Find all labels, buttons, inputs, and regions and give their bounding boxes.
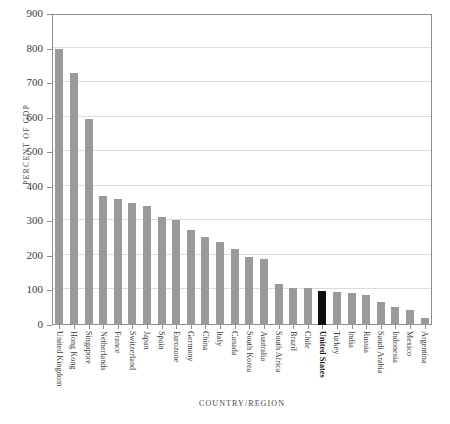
bar-group bbox=[330, 14, 345, 325]
x-axis-label: Australia bbox=[259, 331, 267, 361]
bar-group bbox=[315, 14, 330, 325]
bar bbox=[377, 302, 385, 325]
x-axis-label: Japan bbox=[142, 331, 150, 350]
x-axis-label: Netherlands bbox=[98, 331, 106, 371]
bar bbox=[391, 307, 399, 325]
x-axis-label: Eurozone bbox=[171, 331, 179, 362]
bars-container bbox=[52, 14, 432, 325]
bar bbox=[143, 206, 151, 325]
x-axis-tick bbox=[249, 325, 250, 329]
x-axis-label: Switzerland bbox=[128, 331, 136, 370]
x-axis-tick bbox=[410, 325, 411, 329]
x-axis-label: Italy bbox=[215, 331, 223, 346]
bar bbox=[70, 73, 78, 325]
x-axis-title: COUNTRY/REGION bbox=[52, 399, 432, 408]
y-tick-label: 100 bbox=[27, 283, 44, 295]
bar-group bbox=[242, 14, 257, 325]
x-axis-label: Mexico bbox=[405, 331, 413, 356]
x-axis-tick bbox=[147, 325, 148, 329]
y-tick-label: 800 bbox=[27, 42, 44, 54]
x-axis-label: Saudi Arabia bbox=[376, 331, 384, 374]
x-axis-tick bbox=[176, 325, 177, 329]
bar bbox=[333, 292, 341, 325]
y-tick-label: 300 bbox=[27, 214, 44, 226]
bar bbox=[201, 237, 209, 325]
x-axis-label: South Korea bbox=[245, 331, 253, 372]
bar-group bbox=[300, 14, 315, 325]
x-axis-label: Turkey bbox=[332, 331, 340, 354]
x-axis-label: China bbox=[201, 331, 209, 351]
bar bbox=[99, 196, 107, 325]
x-axis-tick bbox=[293, 325, 294, 329]
bar bbox=[231, 249, 239, 325]
bar-group bbox=[81, 14, 96, 325]
x-axis-label: France bbox=[113, 331, 121, 353]
x-axis-tick bbox=[366, 325, 367, 329]
y-tick-label: 200 bbox=[27, 249, 44, 261]
x-axis-label: United States bbox=[318, 331, 326, 378]
y-axis-tick: 300 bbox=[0, 221, 52, 222]
x-axis-tick bbox=[59, 325, 60, 329]
x-axis-label: Chile bbox=[303, 331, 311, 349]
bar bbox=[172, 220, 180, 325]
x-axis-tick bbox=[395, 325, 396, 329]
bar bbox=[362, 295, 370, 325]
bar-group bbox=[110, 14, 125, 325]
bar bbox=[421, 318, 429, 325]
bar-group bbox=[125, 14, 140, 325]
bar bbox=[406, 310, 414, 325]
x-axis-tick bbox=[322, 325, 323, 329]
bar-group bbox=[388, 14, 403, 325]
bar-group bbox=[140, 14, 155, 325]
x-axis-tick bbox=[205, 325, 206, 329]
y-axis-tick: 900 bbox=[0, 14, 52, 15]
bar bbox=[55, 49, 63, 325]
bar-group bbox=[271, 14, 286, 325]
bar-chart: PERCENT OF GDP 0100200300400500600700800… bbox=[0, 0, 450, 424]
x-axis-tick bbox=[337, 325, 338, 329]
bar bbox=[289, 288, 297, 325]
x-axis-label: Argentina bbox=[420, 331, 428, 364]
bar-group bbox=[374, 14, 389, 325]
x-axis-tick bbox=[118, 325, 119, 329]
x-axis-label: South Africa bbox=[274, 331, 282, 373]
bar-group bbox=[344, 14, 359, 325]
x-axis-tick bbox=[103, 325, 104, 329]
bar-group bbox=[213, 14, 228, 325]
x-axis-tick bbox=[89, 325, 90, 329]
y-axis-tick: 0 bbox=[0, 325, 52, 326]
x-axis-label: United Kingdom bbox=[55, 331, 63, 386]
bar-group bbox=[154, 14, 169, 325]
x-axis-tick bbox=[279, 325, 280, 329]
bar bbox=[85, 119, 93, 325]
x-axis-tick bbox=[220, 325, 221, 329]
bar-group bbox=[417, 14, 432, 325]
bar-group bbox=[257, 14, 272, 325]
bar-group bbox=[359, 14, 374, 325]
y-tick-label: 0 bbox=[38, 318, 44, 330]
bar bbox=[245, 257, 253, 325]
y-tick-label: 900 bbox=[27, 7, 44, 19]
bar-group bbox=[403, 14, 418, 325]
x-axis-tick bbox=[162, 325, 163, 329]
x-axis-label: Brazil bbox=[288, 331, 296, 351]
x-axis-labels: United KingdomHong KongSingaporeNetherla… bbox=[52, 331, 432, 393]
bar bbox=[275, 284, 283, 325]
bar-group bbox=[198, 14, 213, 325]
bar-group bbox=[286, 14, 301, 325]
x-axis-tick bbox=[132, 325, 133, 329]
y-axis-title: PERCENT OF GDP bbox=[22, 75, 31, 215]
x-axis-tick bbox=[381, 325, 382, 329]
bar bbox=[318, 291, 326, 325]
x-axis-label: India bbox=[347, 331, 355, 348]
x-axis-label: Russia bbox=[361, 331, 369, 353]
x-axis-tick bbox=[235, 325, 236, 329]
bar bbox=[216, 242, 224, 325]
bar bbox=[158, 217, 166, 325]
x-axis-tick bbox=[74, 325, 75, 329]
x-axis-label: Spain bbox=[157, 331, 165, 350]
bar-group bbox=[169, 14, 184, 325]
bar bbox=[348, 293, 356, 325]
bar bbox=[304, 288, 312, 325]
x-axis-label: Canada bbox=[230, 331, 238, 356]
